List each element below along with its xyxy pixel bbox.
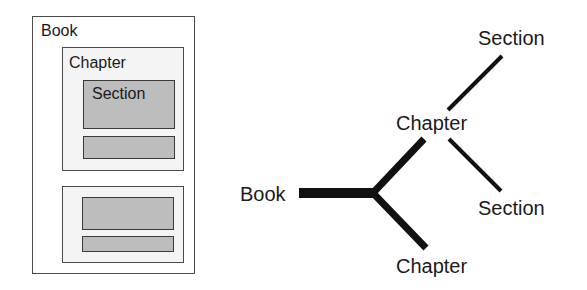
book-to-chapter-lower-line (372, 192, 426, 248)
book-to-chapter-upper-line (372, 139, 424, 194)
chapter-to-section-upper-line (448, 56, 502, 110)
chapter-to-section-lower-line (449, 139, 501, 191)
tree-section-upper-label: Section (478, 28, 545, 48)
tree-book-label: Book (240, 184, 286, 204)
tree-section-lower-label: Section (478, 198, 545, 218)
tree-chapter-upper-label: Chapter (396, 113, 467, 133)
tree-chapter-lower-label: Chapter (396, 256, 467, 276)
